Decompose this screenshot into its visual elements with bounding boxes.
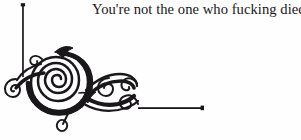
flourish-strokes <box>5 47 138 132</box>
horizontal-rule-terminal-dot <box>201 106 204 111</box>
vertical-rule <box>22 5 24 77</box>
vertical-rule-terminal-dot <box>21 3 25 6</box>
rules-group <box>21 3 204 110</box>
ornament-svg <box>0 0 301 140</box>
lower-drop-ring <box>57 120 67 131</box>
horizontal-rule <box>138 107 204 109</box>
ornament-flourish <box>0 0 301 140</box>
page-canvas: You're not the one who fucking died <box>0 0 301 140</box>
